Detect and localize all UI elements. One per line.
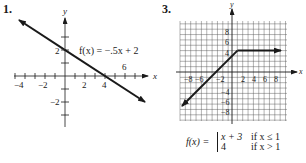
- x-tick-label: 4: [102, 80, 107, 90]
- x-tick-label: 2: [82, 80, 87, 90]
- x-tick-label: −2: [38, 80, 48, 90]
- piece-condition: if x > 1: [251, 142, 280, 152]
- y-tick-label: 2: [55, 46, 60, 56]
- piece-expression: 4: [221, 142, 251, 152]
- function-label: f(x) = −.5x + 2: [79, 45, 138, 57]
- x-tick-label: 4: [252, 75, 256, 84]
- y-tick-label: 8: [225, 28, 229, 37]
- formula-piece: 4 if x > 1: [221, 142, 280, 152]
- y-tick-label: −6: [221, 98, 230, 107]
- x-tick-label: −8: [184, 75, 193, 84]
- y-tick-label: −2: [50, 97, 60, 107]
- function-line: [19, 20, 64, 49]
- brace-icon: [217, 132, 218, 152]
- graph-1: [14, 18, 148, 127]
- x-tick-label: −4: [14, 80, 24, 90]
- y-axis-label: y: [229, 0, 234, 9]
- y-axis-label: y: [62, 6, 67, 16]
- y-tick-label: −4: [221, 88, 230, 97]
- grid: [180, 21, 287, 121]
- graph-3: [176, 9, 297, 124]
- x-axis-label: x: [152, 71, 157, 81]
- x-axis-label: x: [298, 67, 303, 76]
- y-tick-label: 6: [225, 38, 229, 47]
- x-tick-label: 6: [263, 75, 267, 84]
- y-tick-label: 4: [225, 49, 229, 58]
- formula-lhs: f(x) =: [186, 137, 209, 147]
- x-tick-label: 6: [122, 62, 127, 72]
- x-tick-label: 2: [241, 75, 245, 84]
- x-tick-label: 8: [274, 75, 278, 84]
- y-tick-label: −8: [221, 108, 230, 117]
- x-tick-label: −2: [216, 75, 225, 84]
- x-tick-label: −6: [195, 75, 204, 84]
